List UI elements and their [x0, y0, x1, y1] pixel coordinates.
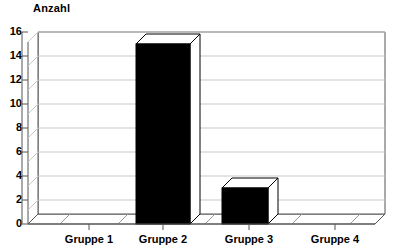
- bar-chart: Anzahl 16 14 12 10 8 6 4 2 0: [0, 0, 393, 251]
- y-axis-ticks: [22, 32, 28, 224]
- xtick-label-gruppe-2: Gruppe 2: [119, 233, 207, 245]
- plot-area: [0, 0, 393, 251]
- bar-gruppe-3: [222, 178, 278, 224]
- xtick-label-gruppe-3: Gruppe 3: [205, 233, 293, 245]
- xtick-label-gruppe-4: Gruppe 4: [291, 233, 379, 245]
- x-axis-ticks: [89, 224, 335, 230]
- bar-gruppe-2: [136, 34, 200, 224]
- back-wall: [38, 32, 385, 214]
